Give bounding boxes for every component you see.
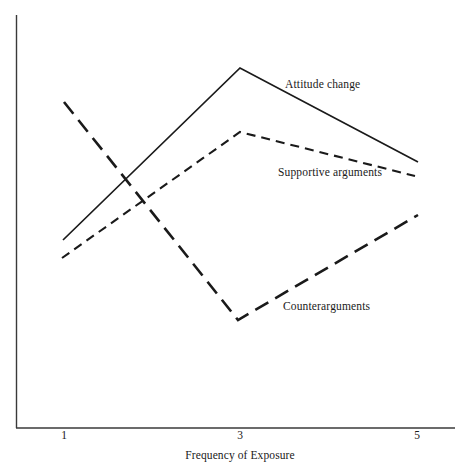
x-tick-label-1: 1 [61,429,67,441]
x-tick-label-3: 3 [237,429,243,441]
series-label-counterarguments: Counterarguments [283,300,370,312]
line-chart: Attitude change Supportive arguments Cou… [0,0,474,470]
series-line-attitude-change [63,68,418,240]
chart-plot-area [0,0,474,470]
series-line-supportive-arguments [62,132,415,258]
series-label-supportive-arguments: Supportive arguments [278,166,382,178]
x-axis-title: Frequency of Exposure [185,449,294,461]
x-tick-label-5: 5 [414,429,420,441]
series-label-attitude-change: Attitude change [285,78,360,90]
